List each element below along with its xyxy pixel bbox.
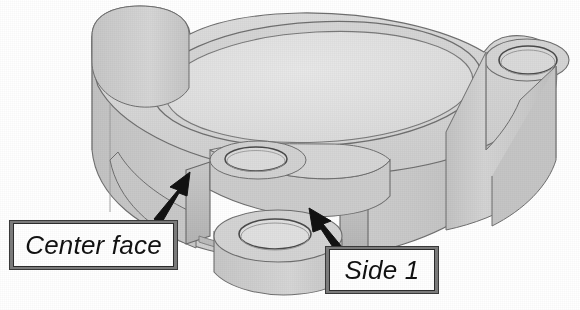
- callout-center-face-text: Center face: [13, 223, 174, 267]
- bolt-hole-boss-mid: [210, 141, 306, 179]
- callout-side-1-text: Side 1: [329, 249, 435, 291]
- callout-label-center-face: Center face: [10, 221, 177, 269]
- illustration-canvas: Center face Side 1: [0, 0, 580, 310]
- callout-label-side-1: Side 1: [326, 247, 438, 293]
- left-boss-outer-wall: [92, 6, 189, 107]
